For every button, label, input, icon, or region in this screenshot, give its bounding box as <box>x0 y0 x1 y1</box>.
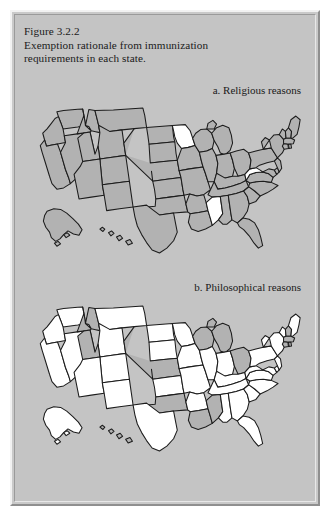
state-ak-map-b: Alaska <box>43 407 82 440</box>
figure-caption-line-2: requirements in each state. <box>24 52 304 66</box>
state-mn-map-b: Minnesota <box>172 323 195 347</box>
state-ri-map-b: Rhode Island <box>288 342 291 346</box>
state-sd-map-b: South Dakota <box>149 340 177 361</box>
state-sd-map-a: South Dakota <box>149 142 177 163</box>
state-ak-map-a: Alaska <box>43 209 82 242</box>
state-ak-island-1-map-a <box>54 241 60 246</box>
map-panel-a-religious: WashingtonOregonCaliforniaNevadaIdahoMon… <box>15 97 315 269</box>
state-ri-map-a: Rhode Island <box>288 144 291 148</box>
state-ct-map-a: Connecticut <box>282 144 288 150</box>
figure-page: Figure 3.2.2 Exemption rationale from im… <box>0 0 330 516</box>
state-nd-map-b: North Dakota <box>147 324 175 343</box>
us-map-b-svg: WashingtonOregonCaliforniaNevadaIdahoMon… <box>15 295 315 467</box>
state-ma-map-a: Massachusetts <box>284 138 295 144</box>
figure-caption-line-1: Exemption rationale from immunization <box>24 39 304 53</box>
state-fl-map-b: Florida <box>237 416 262 446</box>
figure-title-block: Figure 3.2.2 Exemption rationale from im… <box>24 25 304 66</box>
state-nm-map-b: New Mexico <box>102 379 133 408</box>
state-ak-island-1-map-b <box>54 439 60 444</box>
figure-content: Figure 3.2.2 Exemption rationale from im… <box>17 17 313 499</box>
state-nm-map-a: New Mexico <box>102 181 133 210</box>
state-ct-map-b: Connecticut <box>282 342 288 348</box>
panel-a-label: a. Religious reasons <box>213 84 301 96</box>
state-mn-map-a: Minnesota <box>172 125 195 149</box>
state-hi-map-b: Hawaii <box>100 425 133 443</box>
state-hi-map-a: Hawaii <box>100 227 133 245</box>
map-panel-b-philosophical: WashingtonOregonCaliforniaNevadaIdahoMon… <box>15 295 315 467</box>
state-fl-map-a: Florida <box>237 218 262 248</box>
figure-number: Figure 3.2.2 <box>24 25 304 39</box>
state-ar-map-b: Arkansas <box>186 392 208 412</box>
panel-b-label: b. Philosophical reasons <box>194 281 301 293</box>
state-ar-map-a: Arkansas <box>186 194 208 214</box>
state-co-map-b: Colorado <box>100 353 129 382</box>
us-map-a-svg: WashingtonOregonCaliforniaNevadaIdahoMon… <box>15 97 315 269</box>
state-nd-map-a: North Dakota <box>147 126 175 145</box>
state-co-map-a: Colorado <box>100 155 129 184</box>
state-ma-map-b: Massachusetts <box>284 336 295 342</box>
